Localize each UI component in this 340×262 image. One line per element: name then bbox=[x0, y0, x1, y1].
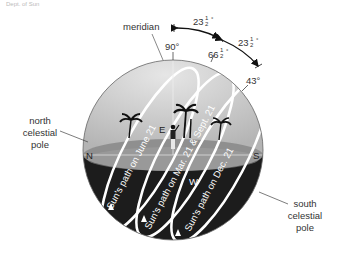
upper-arc-frac-den: 2 bbox=[205, 21, 209, 27]
svg-text:celestial: celestial bbox=[23, 127, 57, 138]
lower-arc-frac-den: 2 bbox=[250, 42, 254, 48]
lower-arc-angle: 23 bbox=[238, 37, 249, 48]
east-label: E bbox=[159, 124, 165, 135]
lower-arc-degree: ° bbox=[256, 37, 259, 43]
north-label: N bbox=[86, 150, 93, 161]
svg-text:south: south bbox=[293, 198, 316, 209]
summer-frac-den: 2 bbox=[220, 53, 224, 59]
west-label: W bbox=[189, 176, 198, 187]
zenith-angle: 90° bbox=[165, 41, 180, 52]
svg-text:celestial: celestial bbox=[288, 210, 322, 221]
svg-text:north: north bbox=[29, 115, 51, 126]
meridian-leader bbox=[152, 34, 163, 60]
equinox-angle: 43° bbox=[246, 75, 261, 86]
svg-text:pole: pole bbox=[296, 222, 314, 233]
south-label: S bbox=[253, 150, 259, 161]
diagram-svg: Dept. of Sun bbox=[0, 0, 340, 262]
upper-arc-degree: ° bbox=[211, 16, 214, 22]
upper-arc-arrow bbox=[177, 28, 219, 38]
south-pole-leader bbox=[259, 192, 288, 204]
south-pole-label: south celestial pole bbox=[288, 198, 322, 233]
header-caption: Dept. of Sun bbox=[6, 1, 39, 7]
upper-arc-angle: 23 bbox=[193, 16, 204, 27]
celestial-sphere-diagram: Dept. of Sun bbox=[0, 0, 340, 262]
summer-angle: 66 bbox=[208, 49, 219, 60]
meridian-label: meridian bbox=[123, 21, 159, 32]
north-pole-label: north celestial pole bbox=[23, 115, 57, 150]
summer-degree: ° bbox=[226, 48, 229, 54]
svg-text:pole: pole bbox=[31, 139, 49, 150]
